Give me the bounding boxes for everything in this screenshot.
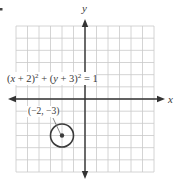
eq-plus-2: + 2) [15,73,35,85]
eq-plus-open: + ( [39,73,54,85]
coordinate-plane-figure: x y (x + 2)2 + (y + 3)2 = 1 (−2, −3) [0,0,183,183]
eq-plus-3: + 3) [58,73,78,85]
y-axis-label: y [81,2,87,14]
x-axis-arrow-right-icon [157,96,165,102]
equation-label: (x + 2)2 + (y + 3)2 = 1 [7,72,98,85]
circle-center-label: (−2, −3) [28,106,59,117]
y-axis-arrow-down-icon [82,171,88,179]
x-axis-arrow-left-icon [8,96,16,102]
eq-equals-1: = 1 [81,73,97,84]
corner-mark [0,8,3,11]
y-axis-arrow-up-icon [82,19,88,27]
x-axis-label: x [167,93,173,105]
center-leader-line [53,118,61,134]
